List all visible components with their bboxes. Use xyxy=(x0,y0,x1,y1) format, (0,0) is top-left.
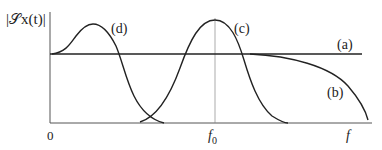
curve-b xyxy=(250,54,368,120)
origin-label: 0 xyxy=(47,129,54,143)
curve-a-label: (a) xyxy=(337,38,353,52)
f0-subscript: 0 xyxy=(212,135,217,146)
curve-c xyxy=(140,20,288,123)
curve-d-label: (d) xyxy=(111,22,127,36)
f0-tick-label: f0 xyxy=(208,129,217,148)
spectrum-diagram xyxy=(0,0,382,150)
y-axis-label: |𝒮x(t)| xyxy=(6,12,46,26)
curve-b-label: (b) xyxy=(327,86,343,100)
curve-d xyxy=(52,24,164,123)
x-axis-label: f xyxy=(346,129,350,143)
curve-c-label: (c) xyxy=(234,22,250,36)
